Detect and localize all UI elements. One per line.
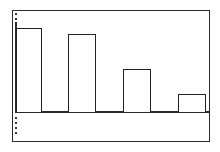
bar-1	[16, 28, 42, 112]
bar-4	[178, 94, 206, 112]
bar-2	[68, 34, 96, 112]
y-axis-tick-marks-bottom	[15, 117, 17, 137]
bar-3	[123, 69, 151, 112]
